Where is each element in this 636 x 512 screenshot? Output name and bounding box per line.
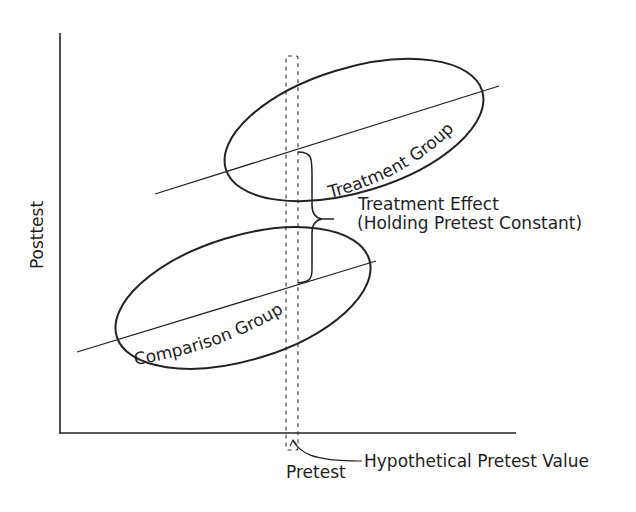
treatment-effect-brace [298,152,334,283]
comparison-group-label: Comparison Group [132,299,286,369]
hypothetical-pretest-band [286,56,298,450]
pretest-value-pointer [293,441,362,461]
treatment-effect-diagram: Posttest Pretest Treatment Group Compari… [0,0,636,512]
treatment-effect-label: Treatment Effect [357,194,499,214]
treatment-effect-sublabel: (Holding Pretest Constant) [357,213,582,233]
y-axis-label: Posttest [27,201,47,270]
diagram-canvas: Posttest Pretest Treatment Group Compari… [0,0,636,512]
x-axis-label: Pretest [286,462,346,482]
hypothetical-pretest-label: Hypothetical Pretest Value [364,451,589,471]
